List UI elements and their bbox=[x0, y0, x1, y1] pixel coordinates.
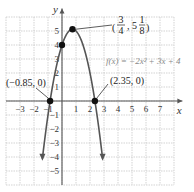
x-tick-label: 4 bbox=[116, 104, 121, 114]
right-root-label: (2.35, 0) bbox=[110, 75, 144, 87]
y-tick-label: −5 bbox=[49, 166, 59, 176]
y-tick-label: 1 bbox=[55, 82, 60, 92]
svg-text:,: , bbox=[127, 20, 130, 31]
y-tick-label: −3 bbox=[49, 138, 59, 148]
svg-text:3: 3 bbox=[119, 14, 124, 25]
x-tick-label: 6 bbox=[144, 104, 149, 114]
y-tick-label: 5 bbox=[55, 26, 60, 36]
y-tick-label: −2 bbox=[49, 124, 59, 134]
x-tick-label: 5 bbox=[130, 104, 135, 114]
parabola-chart: xy −3−2−1123456754321−1−2−3−4−5 (34,518)… bbox=[0, 0, 194, 192]
y-tick-label: −4 bbox=[49, 152, 59, 162]
x-tick-label: 2 bbox=[88, 104, 93, 114]
y-axis-arrow-icon bbox=[60, 9, 65, 14]
x-tick-label: 3 bbox=[102, 104, 107, 114]
key-point bbox=[92, 98, 98, 104]
x-tick-label: −3 bbox=[15, 104, 25, 114]
annotations: (34,518)f(x) = −2x² + 3x + 4(−0.85, 0)(2… bbox=[6, 14, 181, 98]
key-point bbox=[47, 98, 53, 104]
svg-text:8: 8 bbox=[140, 25, 145, 36]
svg-text:): ) bbox=[146, 22, 149, 34]
svg-text:4: 4 bbox=[119, 25, 124, 36]
x-axis-arrow-icon bbox=[177, 99, 182, 104]
key-point bbox=[69, 26, 75, 32]
vertex-label: (34,518) bbox=[112, 14, 149, 36]
svg-text:5: 5 bbox=[132, 20, 137, 31]
x-tick-label: 7 bbox=[158, 104, 163, 114]
key-point bbox=[59, 42, 65, 48]
svg-text:(: ( bbox=[112, 22, 116, 34]
function-label: f(x) = −2x² + 3x + 4 bbox=[106, 56, 181, 66]
y-axis-label: y bbox=[52, 3, 58, 15]
x-tick-label: −2 bbox=[29, 104, 39, 114]
y-tick-label: 4 bbox=[55, 40, 60, 50]
x-axis-label: x bbox=[176, 104, 182, 116]
key-points bbox=[47, 26, 98, 104]
left-root-label: (−0.85, 0) bbox=[6, 77, 46, 89]
svg-text:1: 1 bbox=[140, 14, 145, 25]
x-tick-label: 1 bbox=[74, 104, 79, 114]
y-tick-label: −1 bbox=[49, 110, 59, 120]
